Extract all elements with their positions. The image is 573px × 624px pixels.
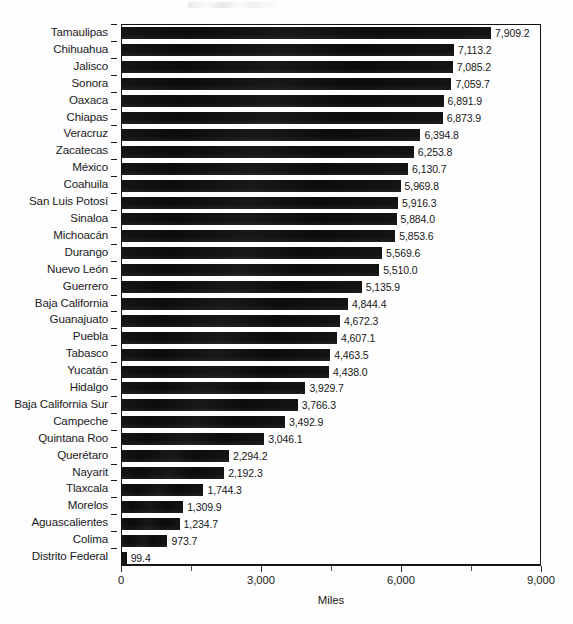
x-axis-major-tick — [541, 566, 542, 572]
y-axis-tick — [111, 311, 117, 312]
bar-row: 3,766.3 — [122, 397, 540, 414]
bar-row: 5,969.8 — [122, 177, 540, 194]
bar — [122, 535, 167, 547]
bar — [122, 467, 224, 479]
bar-row: 5,135.9 — [122, 279, 540, 296]
bar-row: 1,744.3 — [122, 481, 540, 498]
y-axis-tick-label: Chiapas — [67, 109, 109, 126]
bar-value-label: 3,492.9 — [289, 414, 323, 430]
bar-row: 6,891.9 — [122, 93, 540, 110]
bar-value-label: 2,192.3 — [228, 465, 262, 481]
y-axis-tick — [111, 396, 117, 397]
bar-row: 4,438.0 — [122, 363, 540, 380]
y-axis-tick — [111, 159, 117, 160]
y-axis-tick-label: Sonora — [72, 75, 109, 92]
y-axis-tick — [111, 345, 117, 346]
bar — [122, 433, 264, 445]
bar-value-label: 5,884.0 — [401, 211, 435, 227]
y-axis-tick-label: Tamaulipas — [51, 24, 108, 41]
bar-value-label: 99.4 — [131, 550, 151, 566]
bar-value-label: 1,309.9 — [187, 499, 221, 515]
bar — [122, 129, 420, 141]
bar-value-label: 5,853.6 — [399, 228, 433, 244]
bar-value-label: 4,844.4 — [352, 296, 386, 312]
y-axis-tick-label: Hidalgo — [70, 379, 108, 396]
y-axis-tick-label: Michoacán — [53, 227, 108, 244]
y-axis-tick — [111, 480, 117, 481]
bar-row: 1,309.9 — [122, 498, 540, 515]
y-axis-tick-label: Campeche — [53, 413, 108, 430]
bar-row: 3,929.7 — [122, 380, 540, 397]
bar-value-label: 5,569.6 — [386, 245, 420, 261]
bar-row: 6,394.8 — [122, 126, 540, 143]
bar — [122, 450, 229, 462]
bar-value-label: 4,672.3 — [344, 313, 378, 329]
bar — [122, 416, 285, 428]
bar-value-label: 973.7 — [171, 533, 197, 549]
y-axis-category-labels: TamaulipasChihuahuaJaliscoSonoraOaxacaCh… — [0, 24, 117, 565]
bar-value-label: 7,059.7 — [455, 76, 489, 92]
bar-row: 2,294.2 — [122, 448, 540, 465]
bar-row: 6,873.9 — [122, 110, 540, 127]
x-axis-major-tick — [401, 566, 402, 572]
y-axis-tick-label: Distrito Federal — [32, 548, 108, 565]
bar-row: 4,672.3 — [122, 312, 540, 329]
bar — [122, 399, 298, 411]
x-axis-tick-label: 6,000 — [387, 574, 415, 586]
y-axis-tick — [111, 295, 117, 296]
y-axis-tick — [111, 58, 117, 59]
bar-value-label: 1,234.7 — [184, 516, 218, 532]
y-axis-tick — [111, 328, 117, 329]
y-axis-tick-label: Baja California — [35, 295, 108, 312]
bar — [122, 366, 329, 378]
y-axis-tick-label: Yucatán — [67, 362, 108, 379]
y-axis-tick-label: Guerrero — [63, 278, 108, 295]
y-axis-tick — [111, 227, 117, 228]
y-axis-tick — [111, 193, 117, 194]
bar-row: 1,234.7 — [122, 515, 540, 532]
y-axis-tick-label: Baja California Sur — [14, 396, 108, 413]
y-axis-tick-label: Morelos — [68, 497, 108, 514]
y-axis-tick-label: Jalisco — [74, 58, 108, 75]
bar-value-label: 4,438.0 — [333, 364, 367, 380]
y-axis-tick — [111, 362, 117, 363]
x-axis-major-tick — [121, 566, 122, 572]
bar — [122, 247, 382, 259]
bar-row: 4,463.5 — [122, 346, 540, 363]
bar-value-label: 6,253.8 — [418, 144, 452, 160]
bar-row: 7,113.2 — [122, 42, 540, 59]
y-axis-tick — [111, 379, 117, 380]
y-axis-tick-label: Veracruz — [63, 125, 108, 142]
bar — [122, 61, 453, 73]
y-axis-tick-label: Nuevo León — [47, 261, 108, 278]
bar-value-label: 2,294.2 — [233, 448, 267, 464]
scan-artifact — [188, 2, 278, 8]
bar — [122, 213, 397, 225]
y-axis-tick — [111, 464, 117, 465]
y-axis-tick-label: Quintana Roo — [38, 430, 108, 447]
bar-row: 7,059.7 — [122, 76, 540, 93]
bar — [122, 518, 180, 530]
plot-area: 7,909.27,113.27,085.27,059.76,891.96,873… — [121, 24, 541, 565]
y-axis-tick — [111, 548, 117, 549]
bar-value-label: 4,607.1 — [341, 330, 375, 346]
x-axis-tick-label: 0 — [118, 574, 124, 586]
bar-value-label: 3,929.7 — [309, 380, 343, 396]
bar-value-label: 1,744.3 — [207, 482, 241, 498]
bar — [122, 382, 305, 394]
y-axis-tick — [111, 244, 117, 245]
bar — [122, 146, 414, 158]
bar — [122, 315, 340, 327]
bar-row: 6,253.8 — [122, 143, 540, 160]
bar — [122, 281, 362, 293]
bar — [122, 298, 348, 310]
bar-row: 973.7 — [122, 532, 540, 549]
y-axis-tick-label: Zacatecas — [56, 142, 108, 159]
bar-value-label: 6,891.9 — [448, 93, 482, 109]
bar — [122, 501, 183, 513]
bar — [122, 180, 401, 192]
bar — [122, 332, 337, 344]
bar — [122, 484, 203, 496]
bar-row: 4,844.4 — [122, 296, 540, 313]
bar-value-label: 6,130.7 — [412, 161, 446, 177]
